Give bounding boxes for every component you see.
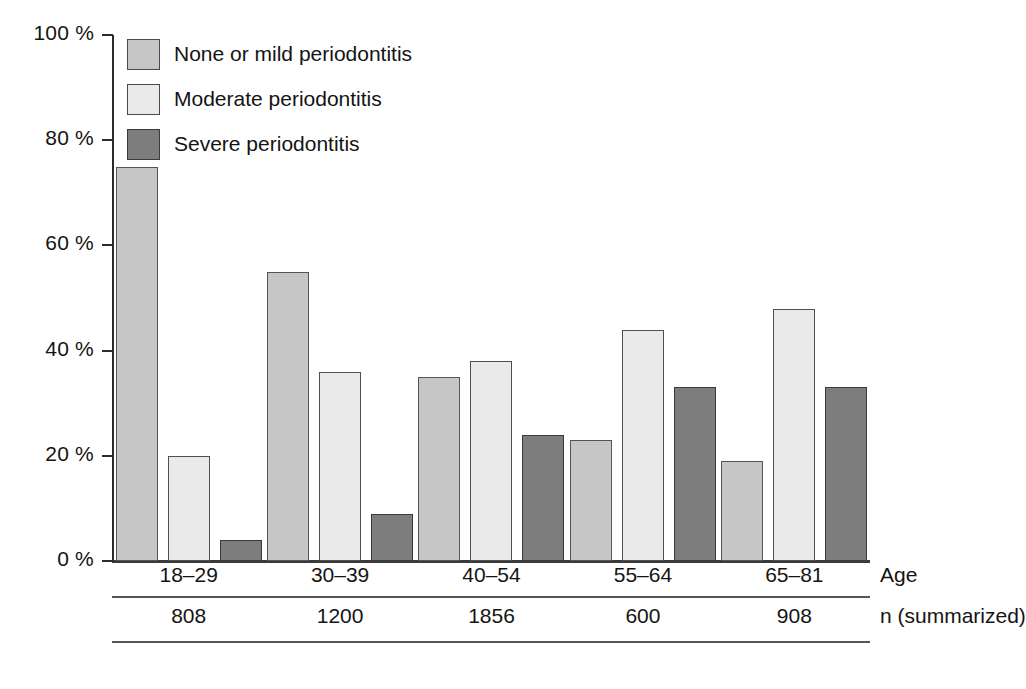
y-axis-tick-label: 100 % [33,21,94,45]
bar [418,377,460,561]
legend-item: None or mild periodontitis [127,36,412,72]
y-axis-tick: 80 % [102,139,113,141]
y-axis-tick-label: 20 % [45,442,94,466]
legend-swatch-icon [127,84,160,115]
legend-item-label: Severe periodontitis [174,132,360,156]
table-rule-upper [112,596,870,598]
n-cell: 808 [113,604,264,628]
y-axis-tick-label: 80 % [45,126,94,150]
bar [116,167,158,562]
table-rule-lower [112,641,870,643]
n-row: 80812001856600908 [113,604,870,628]
n-cell: 1200 [264,604,415,628]
legend-item: Severe periodontitis [127,126,412,162]
chart-legend: None or mild periodontitisModerate perio… [127,36,412,171]
bar [522,435,564,561]
legend-swatch-icon [127,129,160,160]
age-row-label: Age [880,563,917,587]
legend-swatch-icon [127,39,160,70]
legend-item-label: Moderate periodontitis [174,87,382,111]
bar-group [719,35,870,561]
y-axis-tick: 60 % [102,244,113,246]
y-axis-tick-label: 60 % [45,231,94,255]
age-cell: 40–54 [416,563,567,587]
y-axis-tick-label: 40 % [45,337,94,361]
bar-group [416,35,567,561]
bar [319,372,361,561]
bar [721,461,763,561]
y-axis-tick: 40 % [102,350,113,352]
legend-item: Moderate periodontitis [127,81,412,117]
age-row: 18–2930–3940–5455–6465–81 [113,563,870,587]
age-cell: 65–81 [719,563,870,587]
bar [674,387,716,561]
bar [168,456,210,561]
bar [470,361,512,561]
bar [773,309,815,561]
age-cell: 55–64 [567,563,718,587]
y-axis-tick-label: 0 % [57,547,94,571]
n-row-label: n (summarized) [880,604,1026,628]
bar [570,440,612,561]
bar [825,387,867,561]
legend-item-label: None or mild periodontitis [174,42,412,66]
bar-group [567,35,718,561]
y-axis-tick: 0 % [102,560,113,562]
age-cell: 30–39 [264,563,415,587]
age-cell: 18–29 [113,563,264,587]
n-cell: 908 [719,604,870,628]
y-axis-tick: 20 % [102,455,113,457]
n-cell: 600 [567,604,718,628]
y-axis-tick: 100 % [102,34,113,36]
bar [371,514,413,561]
bar [220,540,262,561]
bar [622,330,664,561]
n-cell: 1856 [416,604,567,628]
bar [267,272,309,561]
